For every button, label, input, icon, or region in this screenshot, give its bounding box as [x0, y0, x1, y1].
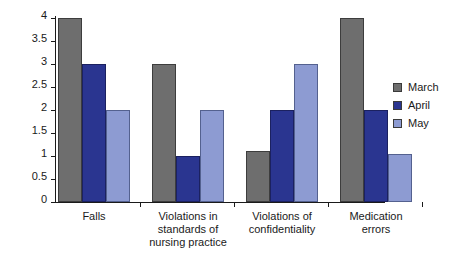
y-axis-tick-label: 2	[41, 102, 47, 113]
x-axis-category-label: Medicationerrors	[322, 210, 430, 236]
bar	[152, 64, 176, 202]
x-axis-group-separator	[422, 202, 423, 207]
bar	[176, 156, 200, 202]
legend-item[interactable]: March	[393, 79, 439, 96]
square-swatch-icon	[393, 83, 402, 92]
legend-item-label: May	[408, 118, 429, 129]
x-axis-category-label: Falls	[40, 210, 148, 223]
bar-group	[58, 16, 130, 202]
bar	[270, 110, 294, 202]
x-axis-category-label-line: Falls	[40, 210, 148, 223]
legend-item[interactable]: May	[393, 115, 439, 132]
bar	[200, 110, 224, 202]
legend: MarchAprilMay	[393, 79, 439, 133]
legend-item[interactable]: April	[393, 97, 439, 114]
x-axis-category-label: Violations instandards ofnursing practic…	[134, 210, 242, 249]
bar	[106, 110, 130, 202]
bar-chart: 00.511.522.533.54 FallsViolations instan…	[0, 0, 460, 256]
bar	[340, 18, 364, 202]
bar	[82, 64, 106, 202]
x-axis-category-label-line: Violations in	[134, 210, 242, 223]
x-axis-category-label: Violations ofconfidentiality	[228, 210, 336, 236]
x-axis-category-label-line: Violations of	[228, 210, 336, 223]
bar	[58, 18, 82, 202]
y-axis-tick-label: 3.5	[32, 33, 47, 44]
x-axis-category-label-line: nursing practice	[134, 236, 242, 249]
x-axis-group-separator	[234, 202, 235, 207]
y-axis-tick-label: 3	[41, 56, 47, 67]
bar-group	[246, 16, 318, 202]
y-axis-tick-label: 0.5	[32, 171, 47, 182]
square-swatch-icon	[393, 101, 402, 110]
x-axis-category-label-line: errors	[322, 223, 430, 236]
bar	[364, 110, 388, 202]
y-axis-tick-label: 1	[41, 148, 47, 159]
legend-item-label: April	[408, 100, 430, 111]
y-axis-tick-label: 2.5	[32, 79, 47, 90]
x-axis-group-separator	[140, 202, 141, 207]
x-axis-group-separator	[328, 202, 329, 207]
x-axis-category-label-line: confidentiality	[228, 223, 336, 236]
plot-area	[56, 16, 382, 202]
bar	[294, 64, 318, 202]
x-axis-category-label-line: Medication	[322, 210, 430, 223]
square-swatch-icon	[393, 119, 402, 128]
y-axis-tick-label: 4	[41, 10, 47, 21]
x-axis-category-label-line: standards of	[134, 223, 242, 236]
y-axis-tick-label: 1.5	[32, 125, 47, 136]
bar-group	[152, 16, 224, 202]
x-axis-line	[55, 202, 385, 203]
bar	[388, 154, 412, 202]
y-axis-tick-label: 0	[41, 194, 47, 205]
legend-item-label: March	[408, 82, 439, 93]
bar	[246, 151, 270, 202]
